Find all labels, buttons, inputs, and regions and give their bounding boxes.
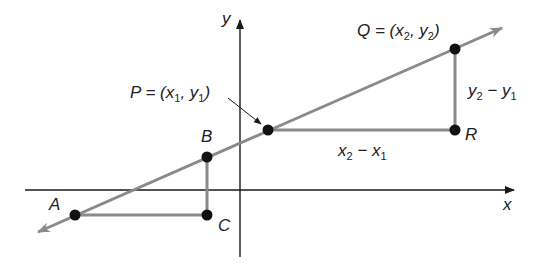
hdiff-op: − x (353, 141, 381, 160)
y-axis-label: y (222, 10, 231, 27)
label-C: C (218, 217, 230, 234)
point-B (202, 152, 213, 163)
vdiff-a: y (468, 81, 477, 100)
label-P-text: P = (x (130, 83, 174, 102)
label-vertical-difference: y2 − y1 (468, 82, 517, 102)
point-A (70, 210, 81, 221)
point-R (450, 125, 461, 136)
label-Q-end: ) (434, 21, 440, 40)
hdiff-a: x (338, 141, 347, 160)
label-P: P = (x1, y1) (130, 84, 210, 104)
label-horizontal-difference: x2 − x1 (338, 142, 387, 162)
label-P-end: ) (204, 83, 210, 102)
label-P-mid: , y (180, 83, 198, 102)
label-Q-mid: , y (410, 21, 428, 40)
label-Q: Q = (x2, y2) (357, 22, 440, 42)
secant-line (270, 28, 502, 130)
label-R: R (465, 126, 477, 143)
x-axis-label: x (503, 196, 512, 213)
point-Q (450, 44, 461, 55)
point-P (263, 125, 274, 136)
vdiff-b-sub: 1 (511, 90, 517, 102)
point-C (202, 210, 213, 221)
vdiff-op: − y (483, 81, 511, 100)
pointer-arrow (228, 98, 261, 124)
hdiff-b-sub: 1 (381, 150, 387, 162)
label-Q-text: Q = (x (357, 21, 404, 40)
label-B: B (201, 128, 212, 145)
label-A: A (49, 196, 60, 213)
